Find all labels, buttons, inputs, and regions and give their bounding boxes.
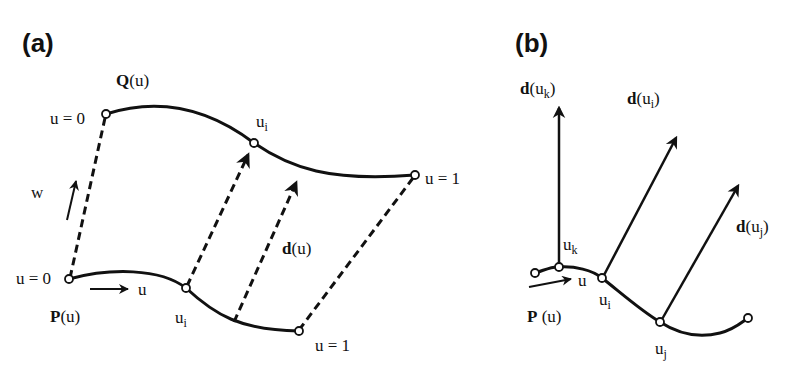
w-label: w — [31, 183, 44, 202]
q-start-label: u = 0 — [50, 109, 85, 128]
p-end-node — [295, 327, 303, 335]
panel-b-label: (b) — [515, 28, 548, 58]
p-start-label: u = 0 — [16, 269, 51, 288]
q-ui-label: ui — [256, 112, 269, 134]
u-direction-arrow-icon-b — [529, 279, 571, 287]
panel-b: (b) d(uk) d(ui) d(uj) uk ui uj u P (u) — [515, 28, 769, 361]
u-label-b: u — [578, 271, 587, 290]
ruling-line-start — [70, 118, 105, 278]
uj-label: uj — [655, 339, 667, 361]
p-start-node — [65, 275, 73, 283]
ui-node — [598, 274, 606, 282]
vector-d-uj — [661, 186, 738, 321]
uj-node — [656, 318, 664, 326]
vector-label-d-ui: d(ui) — [627, 89, 660, 111]
panel-a-label: (a) — [22, 28, 54, 58]
p-curve-label-b: P (u) — [527, 307, 561, 326]
w-direction-arrow-icon — [67, 181, 76, 220]
vector-label-d-uk: d(uk) — [520, 79, 555, 101]
q-ui-node — [250, 139, 258, 147]
ruling-line-end — [299, 178, 413, 330]
p-end-node-b — [744, 314, 752, 322]
q-end-node — [411, 171, 419, 179]
q-start-node — [102, 110, 110, 118]
vector-label-d-uj: d(uj) — [736, 217, 769, 239]
p-ui-node — [182, 284, 190, 292]
q-end-label: u = 1 — [425, 169, 460, 188]
p-ui-label: ui — [175, 308, 188, 330]
ruled-surface-diagram: (a) Q(u) u = 0 ui u = 1 u = 0 P(u) ui u … — [0, 0, 797, 380]
ui-label: ui — [599, 290, 612, 312]
uk-label: uk — [563, 235, 578, 257]
u-label: u — [138, 280, 147, 299]
q-curve-label: Q(u) — [116, 71, 149, 90]
p-curve-b — [535, 267, 748, 335]
uk-node — [555, 263, 563, 271]
p-end-label: u = 1 — [315, 336, 350, 355]
p-start-node-b — [531, 269, 539, 277]
direction-label: d(u) — [282, 239, 311, 258]
panel-a: (a) Q(u) u = 0 ui u = 1 u = 0 P(u) ui u … — [16, 28, 460, 355]
ruling-line-ui — [187, 155, 248, 286]
vector-d-ui — [603, 138, 676, 277]
p-curve-label: P(u) — [50, 307, 80, 326]
